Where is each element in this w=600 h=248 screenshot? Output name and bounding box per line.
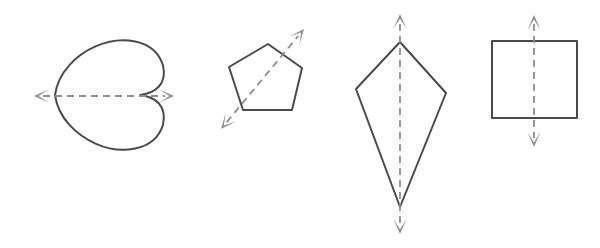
symmetry-figure-canvas: Shapes with one line of symmetry	[0, 0, 600, 248]
shape-group-pentagon	[221, 29, 304, 129]
shape-group-kite	[356, 14, 446, 234]
pentagon-outline	[229, 44, 302, 110]
kite-outline	[356, 42, 446, 207]
shape-group-square	[492, 15, 577, 147]
heart-axis-arrowhead-right	[159, 90, 174, 103]
shape-group-heart	[34, 40, 174, 149]
heart-outline	[55, 40, 164, 149]
